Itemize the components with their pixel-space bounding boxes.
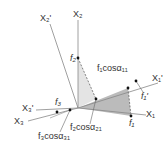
- label-f1cos11: f₁cosα₁₁: [97, 64, 128, 73]
- label-x1p: X₁': [152, 74, 163, 83]
- label-f3cos31: f₃cosα₃₁: [38, 132, 70, 141]
- point-f3: [56, 111, 59, 114]
- point-f1p: [135, 80, 138, 83]
- label-f1p: f₁': [141, 92, 148, 101]
- label-f2cos21: f₂cosα₂₁: [70, 123, 102, 132]
- label-x2: X₂: [73, 10, 83, 19]
- label-x2p: X₂': [40, 14, 51, 23]
- label-x3p: X₃': [22, 104, 33, 113]
- label-f3: f₃: [55, 98, 61, 107]
- x2p-axis: [50, 24, 78, 108]
- point-f2: [77, 57, 80, 60]
- label-x1: X₁: [146, 110, 155, 119]
- point-f1: [130, 115, 133, 118]
- label-f2: f₂: [70, 54, 76, 63]
- label-f1: f₁: [129, 119, 134, 128]
- point-f3cos31: [69, 109, 72, 112]
- point-f2cos21: [95, 98, 98, 101]
- diagram: X₂' X₂ f₂ f₁cosα₁₁ X₁' f₁' f₃ X₃' X₁ X₃ …: [0, 0, 168, 144]
- f2-projection-triangle: [78, 58, 96, 108]
- label-x3: X₃: [14, 117, 24, 126]
- point-f1cos11: [127, 87, 130, 90]
